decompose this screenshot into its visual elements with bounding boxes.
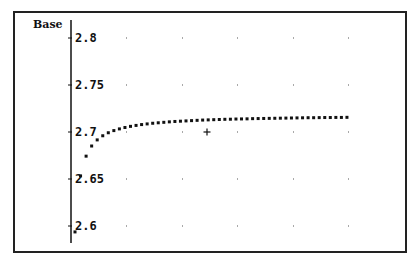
data-point — [96, 138, 99, 141]
data-point — [329, 116, 332, 119]
data-point — [279, 117, 282, 120]
data-point — [234, 118, 237, 121]
data-point — [218, 118, 221, 121]
data-point — [140, 123, 143, 126]
data-point — [135, 124, 138, 127]
data-point — [240, 117, 243, 120]
data-point — [101, 134, 104, 137]
data-point — [146, 122, 149, 125]
data-point — [162, 121, 165, 124]
data-point — [223, 118, 226, 121]
data-point — [301, 116, 304, 119]
data-point — [318, 116, 321, 119]
scatter-plot[interactable] — [0, 0, 414, 263]
data-point — [334, 116, 337, 119]
data-point — [257, 117, 260, 120]
grid-dot — [126, 179, 127, 180]
grid-dot — [126, 226, 127, 227]
grid-dot — [293, 179, 294, 180]
grid-dot — [237, 38, 238, 39]
data-point — [190, 119, 193, 122]
grid-dot — [293, 38, 294, 39]
grid-dot — [182, 38, 183, 39]
data-point — [273, 117, 276, 120]
data-point — [90, 145, 93, 148]
grid-dot — [126, 132, 127, 133]
data-point — [284, 117, 287, 120]
grid-dot — [237, 85, 238, 86]
data-point — [185, 119, 188, 122]
data-point — [118, 127, 121, 130]
grid-dot — [293, 132, 294, 133]
data-point — [323, 116, 326, 119]
data-point — [168, 120, 171, 123]
grid-dot — [126, 38, 127, 39]
grid-dot — [348, 132, 349, 133]
grid-dot — [182, 179, 183, 180]
grid-dot — [126, 85, 127, 86]
data-point — [345, 116, 348, 119]
data-point — [296, 116, 299, 119]
grid-dot — [348, 179, 349, 180]
grid-dot — [182, 132, 183, 133]
data-point — [112, 129, 115, 132]
grid-dot — [293, 85, 294, 86]
data-point — [74, 230, 77, 233]
grid-dot — [182, 85, 183, 86]
data-point — [312, 116, 315, 119]
data-point — [196, 119, 199, 122]
data-point — [107, 131, 110, 134]
data-point — [85, 155, 88, 158]
grid-dot — [348, 38, 349, 39]
grid-dots — [126, 38, 349, 227]
data-point — [246, 117, 249, 120]
data-point — [157, 121, 160, 124]
grid-dot — [237, 179, 238, 180]
data-point — [307, 116, 310, 119]
data-point — [262, 117, 265, 120]
data-point — [179, 120, 182, 123]
data-points — [74, 116, 349, 234]
data-point — [251, 117, 254, 120]
data-point — [151, 122, 154, 125]
data-point — [123, 126, 126, 129]
data-point — [201, 119, 204, 122]
grid-dot — [237, 226, 238, 227]
grid-dot — [237, 132, 238, 133]
grid-dot — [182, 226, 183, 227]
data-point — [290, 116, 293, 119]
data-point — [79, 174, 82, 177]
data-point — [129, 125, 132, 128]
data-point — [212, 118, 215, 121]
data-point — [173, 120, 176, 123]
grid-dot — [293, 226, 294, 227]
data-point — [229, 118, 232, 121]
grid-dot — [348, 226, 349, 227]
crosshair-cursor-icon — [204, 129, 211, 136]
grid-dot — [348, 85, 349, 86]
data-point — [340, 116, 343, 119]
data-point — [268, 117, 271, 120]
data-point — [207, 118, 210, 121]
